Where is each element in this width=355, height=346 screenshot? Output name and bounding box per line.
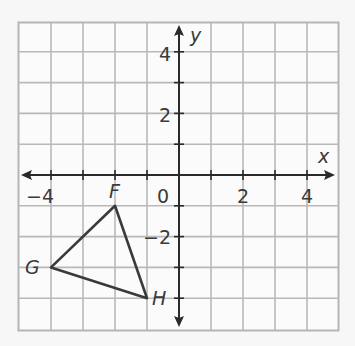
vertex-label-F: F	[109, 180, 121, 202]
vertex-label-H: H	[152, 287, 166, 309]
x-tick-label-4: 4	[301, 185, 313, 207]
x-tick-label-0: 0	[157, 185, 169, 207]
x-axis-label: x	[317, 145, 330, 167]
y-tick-label-neg2: −2	[143, 226, 171, 248]
y-tick-label-4: 4	[159, 43, 171, 65]
coordinate-plane: y x −4 0 2 4 4 2 −2 F G H	[0, 0, 355, 346]
y-axis-label: y	[189, 24, 202, 46]
y-tick-label-2: 2	[159, 104, 171, 126]
vertex-label-G: G	[25, 256, 40, 278]
x-tick-label-neg4: −4	[26, 185, 54, 207]
x-tick-label-2: 2	[237, 185, 249, 207]
